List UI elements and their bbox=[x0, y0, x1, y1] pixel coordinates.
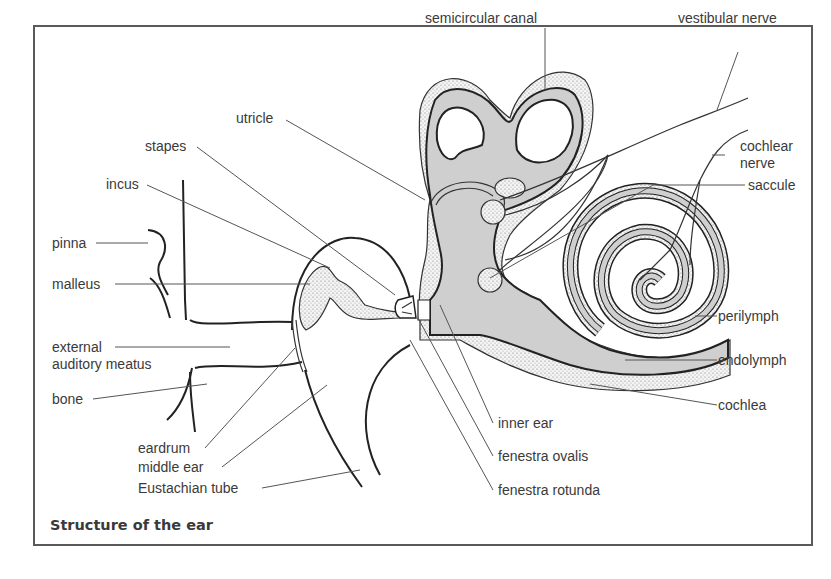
label-eustachian-tube: Eustachian tube bbox=[138, 480, 239, 496]
label-middle-ear: middle ear bbox=[138, 459, 204, 475]
label-saccule: saccule bbox=[748, 177, 796, 193]
label-malleus: malleus bbox=[52, 276, 100, 292]
label-external-auditory-meatus-2: auditory meatus bbox=[52, 356, 152, 372]
label-fenestra-rotunda: fenestra rotunda bbox=[498, 482, 600, 498]
middle-ear-drawing bbox=[292, 238, 416, 487]
cochlea-drawing bbox=[570, 191, 721, 331]
label-semicircular-canal: semicircular canal bbox=[425, 10, 537, 26]
leader-lines bbox=[93, 28, 745, 490]
label-stapes: stapes bbox=[145, 138, 186, 154]
label-cochlear-nerve: cochlear bbox=[740, 138, 793, 154]
outer-ear-drawing bbox=[148, 180, 302, 432]
label-fenestra-ovalis: fenestra ovalis bbox=[498, 448, 588, 464]
label-inner-ear: inner ear bbox=[498, 415, 554, 431]
label-eardrum: eardrum bbox=[138, 440, 190, 456]
label-external-auditory-meatus: external bbox=[52, 339, 102, 355]
label-perilymph: perilymph bbox=[718, 308, 779, 324]
label-incus: incus bbox=[106, 176, 139, 192]
label-cochlear-nerve-2: nerve bbox=[740, 155, 775, 171]
label-endolymph: endolymph bbox=[718, 352, 787, 368]
figure-title: Structure of the ear bbox=[50, 517, 214, 533]
label-pinna: pinna bbox=[52, 235, 86, 251]
ear-diagram: semicircular canal vestibular nerve utri… bbox=[0, 0, 831, 579]
label-utricle: utricle bbox=[236, 110, 274, 126]
label-cochlea: cochlea bbox=[718, 397, 766, 413]
label-vestibular-nerve: vestibular nerve bbox=[678, 10, 777, 26]
label-bone: bone bbox=[52, 391, 83, 407]
